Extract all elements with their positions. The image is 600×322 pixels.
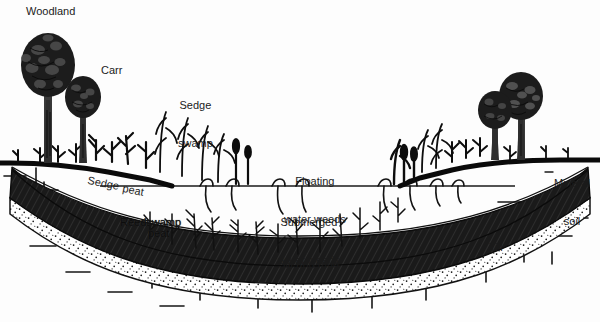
label-mineral-line2: soil [554,215,590,228]
label-submerged-line1: Submerged [278,216,340,229]
label-silt-and-mud: Silt and mud [278,258,339,271]
label-carr: Carr [101,64,122,77]
hydrosere-diagram: Woodland Carr Sedge swamp Floating water… [0,0,600,322]
label-submerged-water-weeds: Submerged water weeds [278,191,340,292]
label-woodland: Woodland [26,5,75,18]
label-floating-line1: Floating [284,175,346,188]
label-mineral-soil: Mineral soil [554,152,590,253]
label-reedswamp-peat-b: peat [148,227,169,240]
label-sedge-swamp-line1: Sedge [178,99,213,112]
label-sedge-swamp: Sedge swamp [178,74,213,175]
label-till: Till [489,241,503,254]
label-mineral-line1: Mineral [554,177,590,190]
label-sedge-swamp-line2: swamp [178,137,213,150]
